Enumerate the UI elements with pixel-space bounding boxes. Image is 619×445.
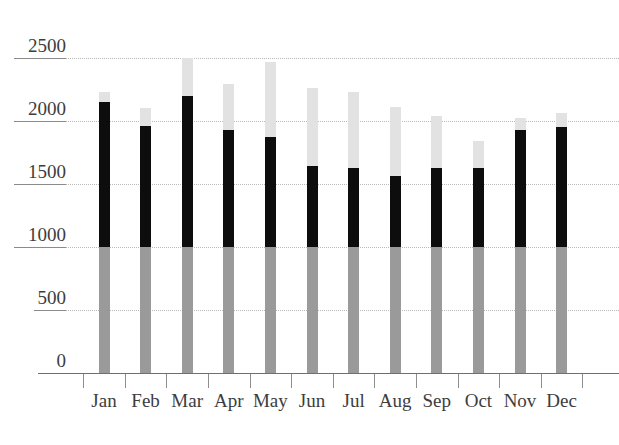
- bar-may: [265, 0, 276, 445]
- y-axis-tick-label: 500: [14, 288, 66, 310]
- y-axis-tick-2000: 2000: [14, 99, 66, 122]
- bar-segment-top: [556, 113, 567, 127]
- y-axis-tick-label: 2000: [14, 99, 66, 121]
- bar-segment-middle: [307, 166, 318, 247]
- bar-segment-base: [99, 247, 110, 373]
- x-axis-tick-mark: [374, 374, 375, 388]
- bar-segment-base: [223, 247, 234, 373]
- bar-segment-base: [348, 247, 359, 373]
- bar-segment-middle: [556, 127, 567, 247]
- x-axis-label-oct: Oct: [465, 391, 492, 410]
- x-axis-label-sep: Sep: [423, 391, 452, 410]
- bar-oct: [473, 0, 484, 445]
- x-axis-tick-mark: [166, 374, 167, 388]
- bar-segment-base: [265, 247, 276, 373]
- bar-segment-middle: [223, 130, 234, 247]
- bar-segment-base: [431, 247, 442, 373]
- x-axis-tick-mark: [416, 374, 417, 388]
- x-axis-tick-mark: [541, 374, 542, 388]
- bar-segment-top: [348, 92, 359, 168]
- y-axis-tick-1000: 1000: [14, 225, 66, 248]
- stacked-bar-chart: 25002000150010005000 JanFebMarAprMayJunJ…: [0, 0, 619, 445]
- y-axis-tick-rule: [14, 58, 66, 59]
- bar-segment-middle: [348, 168, 359, 247]
- bar-apr: [223, 0, 234, 445]
- y-axis-tick-rule: [14, 184, 66, 185]
- bar-segment-middle: [473, 168, 484, 247]
- y-axis-tick-rule: [34, 310, 66, 311]
- x-axis-label-nov: Nov: [504, 391, 537, 410]
- x-axis-label-jan: Jan: [91, 391, 116, 410]
- x-axis-tick-mark: [125, 374, 126, 388]
- y-axis-tick-rule: [14, 247, 66, 248]
- bar-segment-middle: [99, 102, 110, 247]
- x-axis-label-aug: Aug: [379, 391, 412, 410]
- bar-dec: [556, 0, 567, 445]
- x-axis-tick-mark: [458, 374, 459, 388]
- bar-mar: [182, 0, 193, 445]
- bar-segment-base: [307, 247, 318, 373]
- bar-segment-middle: [265, 137, 276, 247]
- bar-segment-middle: [515, 130, 526, 247]
- x-axis-tick-mark: [499, 374, 500, 388]
- bar-segment-base: [182, 247, 193, 373]
- x-axis-label-jun: Jun: [299, 391, 325, 410]
- x-axis-tick-mark: [83, 374, 84, 388]
- x-axis-label-may: May: [253, 391, 288, 410]
- plot-area: 25002000150010005000 JanFebMarAprMayJunJ…: [0, 0, 619, 445]
- x-axis-tick-mark: [582, 374, 583, 388]
- bar-jun: [307, 0, 318, 445]
- x-axis-tick-mark: [250, 374, 251, 388]
- bar-segment-middle: [390, 176, 401, 247]
- bar-segment-base: [140, 247, 151, 373]
- bar-segment-top: [223, 84, 234, 129]
- y-axis-tick-0: 0: [14, 351, 66, 374]
- bar-segment-top: [265, 62, 276, 136]
- bar-segment-top: [390, 107, 401, 177]
- x-axis-tick-mark: [333, 374, 334, 388]
- y-axis-tick-label: 1500: [14, 162, 66, 184]
- bar-feb: [140, 0, 151, 445]
- bar-segment-middle: [140, 126, 151, 247]
- bar-aug: [390, 0, 401, 445]
- bar-segment-top: [99, 92, 110, 102]
- bar-segment-top: [515, 118, 526, 130]
- bar-segment-top: [182, 58, 193, 96]
- y-axis-tick-label: 0: [14, 351, 66, 373]
- bar-segment-base: [556, 247, 567, 373]
- bar-segment-middle: [431, 168, 442, 247]
- y-axis-tick-2500: 2500: [14, 36, 66, 59]
- y-axis-tick-500: 500: [14, 288, 66, 311]
- bar-jul: [348, 0, 359, 445]
- bar-nov: [515, 0, 526, 445]
- bar-segment-top: [140, 108, 151, 126]
- x-axis-label-jul: Jul: [343, 391, 365, 410]
- y-axis-tick-label: 2500: [14, 36, 66, 58]
- x-axis-tick-mark: [291, 374, 292, 388]
- x-axis-tick-mark: [208, 374, 209, 388]
- bar-jan: [99, 0, 110, 445]
- x-axis-label-dec: Dec: [546, 391, 577, 410]
- bar-segment-top: [473, 141, 484, 168]
- y-axis-tick-label: 1000: [14, 225, 66, 247]
- y-axis-tick-rule: [14, 121, 66, 122]
- x-axis-label-apr: Apr: [214, 391, 244, 410]
- bar-segment-top: [431, 116, 442, 168]
- bar-segment-base: [390, 247, 401, 373]
- bar-segment-base: [515, 247, 526, 373]
- x-axis-label-mar: Mar: [171, 391, 203, 410]
- bar-segment-base: [473, 247, 484, 373]
- bar-sep: [431, 0, 442, 445]
- bar-segment-middle: [182, 96, 193, 247]
- x-axis-label-feb: Feb: [131, 391, 160, 410]
- bar-segment-top: [307, 88, 318, 167]
- y-axis-tick-1500: 1500: [14, 162, 66, 185]
